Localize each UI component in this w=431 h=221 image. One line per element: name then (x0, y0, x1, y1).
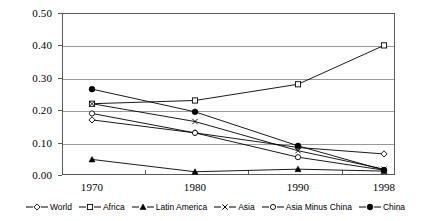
legend-marker-filled-circle (359, 202, 381, 212)
y-axis-tick-label: 0.00 (4, 170, 52, 181)
data-point-open-diamond (89, 117, 95, 123)
series-line (92, 89, 384, 170)
data-point-open-square (87, 204, 92, 209)
series-line (92, 45, 384, 103)
data-point-open-diamond (34, 204, 40, 210)
data-point-open-circle (270, 204, 275, 209)
legend-item-latin-america[interactable]: Latin America (132, 202, 208, 212)
legend-item-world[interactable]: World (26, 202, 72, 212)
data-point-open-square (192, 98, 197, 103)
legend-marker-open-circle (262, 202, 284, 212)
x-axis-tick-label: 1970 (62, 182, 122, 193)
x-axis-tick-label: 1980 (165, 182, 225, 193)
legend-label: Asia (238, 203, 255, 212)
line-chart: WorldAfricaLatin AmericaAsiaAsia Minus C… (0, 0, 431, 221)
data-point-open-diamond (381, 151, 387, 157)
legend-label: Asia Minus China (286, 203, 352, 212)
data-point-filled-circle (192, 109, 198, 115)
series-line (92, 120, 384, 154)
data-point-open-circle (89, 111, 94, 116)
series-layer (62, 13, 395, 175)
y-axis-tick (58, 143, 62, 144)
y-axis-tick (58, 45, 62, 46)
legend-marker-cross (214, 202, 236, 212)
data-point-open-square (295, 82, 300, 87)
data-point-filled-circle (381, 167, 387, 173)
legend-marker-filled-triangle (132, 202, 154, 212)
data-point-filled-circle (367, 204, 373, 210)
y-axis-tick-label: 0.30 (4, 73, 52, 84)
y-axis-tick-label: 0.20 (4, 105, 52, 116)
legend-marker-open-diamond (26, 202, 48, 212)
data-point-open-square (381, 43, 386, 48)
data-point-open-circle (295, 155, 300, 160)
y-axis-tick-label: 0.50 (4, 8, 52, 19)
legend-label: World (50, 203, 72, 212)
y-axis-tick (58, 78, 62, 79)
data-point-filled-triangle (89, 156, 95, 161)
x-axis-tick-label: 1990 (268, 182, 328, 193)
data-point-filled-circle (295, 143, 301, 149)
data-point-cross (222, 204, 227, 209)
series-line (92, 159, 384, 171)
series-line (92, 113, 384, 170)
series-line (92, 104, 384, 169)
chart-legend: WorldAfricaLatin AmericaAsiaAsia Minus C… (0, 199, 431, 215)
y-axis-tick (58, 110, 62, 111)
x-axis-tick-label: 1998 (354, 182, 414, 193)
y-axis-tick-label: 0.40 (4, 40, 52, 51)
legend-item-china[interactable]: China (359, 202, 405, 212)
data-point-filled-circle (89, 86, 95, 92)
legend-label: China (383, 203, 405, 212)
legend-label: Latin America (156, 203, 208, 212)
legend-item-africa[interactable]: Africa (79, 202, 125, 212)
data-point-open-circle (192, 130, 197, 135)
y-axis-tick (58, 13, 62, 14)
legend-item-asia[interactable]: Asia (214, 202, 255, 212)
data-point-filled-triangle (140, 204, 146, 209)
legend-label: Africa (103, 203, 125, 212)
y-axis-tick (58, 175, 62, 176)
legend-marker-open-square (79, 202, 101, 212)
legend-item-asia-minus-china[interactable]: Asia Minus China (262, 202, 352, 212)
y-axis-tick-label: 0.10 (4, 138, 52, 149)
